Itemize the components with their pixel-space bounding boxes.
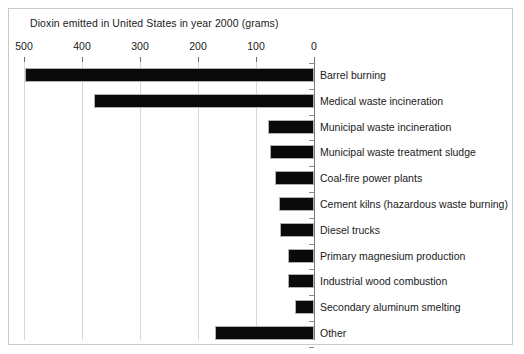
x-tick-label: 200 [189, 40, 207, 52]
bar [295, 300, 314, 314]
bar [94, 94, 314, 108]
category-axis-tick [309, 347, 314, 348]
category-axis-tick [309, 218, 314, 219]
bar [279, 197, 314, 211]
bar-category-label: Secondary aluminum smelting [320, 300, 461, 314]
category-axis-tick [309, 321, 314, 322]
bar-row: Municipal waste treatment sludge [0, 139, 524, 165]
x-tick-label: 100 [247, 40, 265, 52]
bar-row: Primary magnesium production [0, 243, 524, 269]
category-axis-tick [309, 63, 314, 64]
category-axis-tick [309, 192, 314, 193]
bar-category-label: Medical waste incineration [320, 94, 443, 108]
x-tick-label: 400 [73, 40, 91, 52]
bar [280, 223, 314, 237]
bar [288, 249, 314, 263]
bar-category-label: Cement kilns (hazardous waste burning) [320, 197, 508, 211]
chart-title: Dioxin emitted in United States in year … [30, 17, 279, 29]
bar [275, 171, 314, 185]
bar-category-label: Primary magnesium production [320, 249, 465, 263]
x-tick-label: 0 [311, 40, 317, 52]
category-axis-tick [309, 115, 314, 116]
category-axis-tick [309, 244, 314, 245]
bar-row: Municipal waste incineration [0, 114, 524, 140]
bar [288, 274, 314, 288]
bar-row: Secondary aluminum smelting [0, 294, 524, 320]
category-axis-tick [309, 89, 314, 90]
bar-category-label: Municipal waste incineration [320, 120, 451, 134]
bar-row: Cement kilns (hazardous waste burning) [0, 191, 524, 217]
bar-row: Other [0, 320, 524, 346]
bar-category-label: Coal-fire power plants [320, 171, 422, 185]
x-tick-label: 500 [15, 40, 33, 52]
bar-category-label: Other [320, 326, 346, 340]
bar-row: Industrial wood combustion [0, 268, 524, 294]
bar-category-label: Industrial wood combustion [320, 274, 447, 288]
x-tick-label: 300 [131, 40, 149, 52]
bar [270, 145, 314, 159]
bar-category-label: Diesel trucks [320, 223, 380, 237]
category-axis-tick [309, 295, 314, 296]
bar-category-label: Barrel burning [320, 68, 386, 82]
bar-category-label: Municipal waste treatment sludge [320, 145, 476, 159]
bar-row: Diesel trucks [0, 217, 524, 243]
category-axis-tick [309, 269, 314, 270]
bar [215, 326, 314, 340]
bar [268, 120, 314, 134]
bar [25, 68, 314, 82]
bar-row: Medical waste incineration [0, 88, 524, 114]
category-axis-tick [309, 166, 314, 167]
category-axis-tick [309, 140, 314, 141]
bar-row: Coal-fire power plants [0, 165, 524, 191]
bar-row: Barrel burning [0, 62, 524, 88]
bar-chart: Dioxin emitted in United States in year … [0, 0, 524, 354]
